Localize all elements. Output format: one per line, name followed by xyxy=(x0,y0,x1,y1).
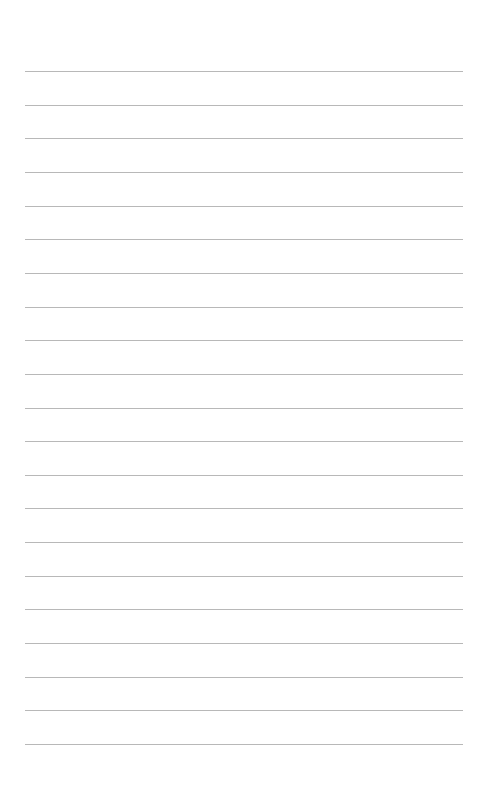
ruled-line xyxy=(25,206,463,207)
ruled-line xyxy=(25,508,463,509)
ruled-line xyxy=(25,744,463,745)
ruled-line xyxy=(25,542,463,543)
ruled-line xyxy=(25,576,463,577)
ruled-line xyxy=(25,105,463,106)
lined-paper-page xyxy=(0,0,501,811)
ruled-line xyxy=(25,239,463,240)
ruled-line xyxy=(25,677,463,678)
ruled-line xyxy=(25,408,463,409)
ruled-line xyxy=(25,273,463,274)
ruled-line xyxy=(25,374,463,375)
ruled-line xyxy=(25,475,463,476)
ruled-line xyxy=(25,307,463,308)
ruled-line xyxy=(25,609,463,610)
ruled-line xyxy=(25,71,463,72)
ruled-line xyxy=(25,643,463,644)
ruled-line xyxy=(25,441,463,442)
ruled-line xyxy=(25,340,463,341)
ruled-line xyxy=(25,172,463,173)
ruled-line xyxy=(25,710,463,711)
ruled-line xyxy=(25,138,463,139)
